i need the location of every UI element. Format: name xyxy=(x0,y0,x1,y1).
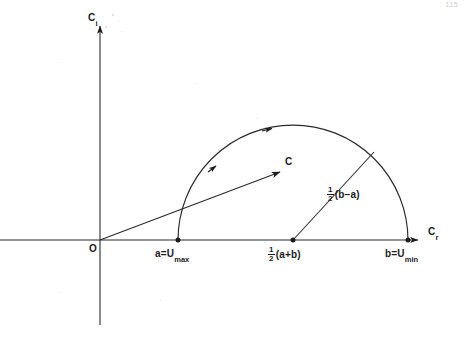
radius-fraction-denominator: 2 xyxy=(327,195,334,203)
point-b-umin-dot xyxy=(406,238,411,243)
point-a-umax-dot xyxy=(176,238,181,243)
point-a-umax-label: a=Umax xyxy=(155,249,189,262)
x-axis-label: Cr xyxy=(428,227,438,240)
vector-c-arrow xyxy=(100,172,280,240)
figure-canvas: 115 xyxy=(0,0,467,338)
center-expression: (a+b) xyxy=(275,250,301,260)
center-fraction: 1 2 xyxy=(268,246,275,264)
origin-label: O xyxy=(89,244,97,254)
x-axis-label-sub: r xyxy=(435,233,438,242)
y-axis-label: Ci xyxy=(88,13,98,26)
point-b-umin-sub: min xyxy=(405,255,418,264)
semicircle-arc xyxy=(178,125,408,240)
arc-direction-arrow xyxy=(208,166,216,172)
vector-c-label: C xyxy=(285,157,292,167)
point-b-umin-lead: b=U xyxy=(385,248,405,259)
point-center-dot xyxy=(291,238,296,243)
radius-label: 1 2 (b−a) xyxy=(327,186,360,204)
figure-drawing xyxy=(0,0,467,338)
radius-fraction: 1 2 xyxy=(327,186,334,204)
point-center-label: 1 2 (a+b) xyxy=(268,246,301,264)
point-a-umax-sub: max xyxy=(174,255,189,264)
radius-expression: (b−a) xyxy=(334,190,360,200)
point-b-umin-label: b=Umin xyxy=(385,249,418,262)
point-a-umax-lead: a=U xyxy=(155,248,174,259)
y-axis-label-sub: i xyxy=(95,19,97,28)
center-fraction-denominator: 2 xyxy=(268,255,275,263)
